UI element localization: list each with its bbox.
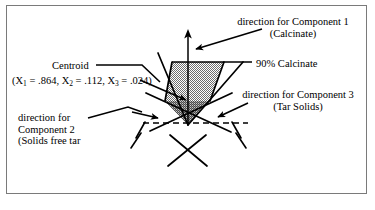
coords-x2-subscript: 2 xyxy=(69,79,73,88)
figure-container: direction for Component 1 (Calcinate) 90… xyxy=(0,0,375,210)
coords-open: (X xyxy=(12,75,23,86)
label-component1: direction for Component 1 (Calcinate) xyxy=(218,16,368,39)
label-calcinate-level: 90% Calcinate xyxy=(256,58,318,70)
label-component2: direction for Component 2 (Solids free t… xyxy=(18,112,138,147)
label-component3: direction for Component 3 (Tar Solids) xyxy=(228,89,368,112)
label-component1-line1: direction for Component 1 xyxy=(218,16,368,28)
coords-x1-value: = .864, X xyxy=(27,75,69,86)
label-centroid-title: Centroid xyxy=(52,60,89,72)
label-component3-line1: direction for Component 3 xyxy=(228,89,368,101)
coords-x2-value: = .112, X xyxy=(73,75,115,86)
coords-x3-subscript: 3 xyxy=(115,79,119,88)
coords-x1-subscript: 1 xyxy=(23,79,27,88)
label-component3-line2: (Tar Solids) xyxy=(228,101,368,113)
label-component2-line1: direction for xyxy=(18,112,138,124)
label-component2-line3: (Solids free tar xyxy=(18,135,138,147)
coords-x3-value: = .024) xyxy=(119,75,152,86)
label-component1-line2: (Calcinate) xyxy=(218,28,368,40)
label-component2-line2: Component 2 xyxy=(18,124,138,136)
label-centroid-coordinates: (X1 = .864, X2 = .112, X3 = .024) xyxy=(12,75,152,88)
outer-tick-marks xyxy=(131,122,246,148)
